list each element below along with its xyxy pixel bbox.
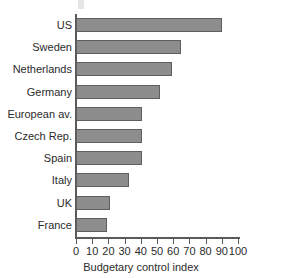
bar-row	[76, 192, 246, 214]
bar-row	[76, 81, 246, 103]
bar-row	[76, 125, 246, 147]
x-tick-label: 50	[151, 245, 163, 257]
bar-chart: USSwedenNetherlandsGermanyEuropean av.Cz…	[0, 0, 282, 278]
bar-row	[76, 36, 246, 58]
category-label: US	[0, 14, 72, 36]
bar-row	[76, 58, 246, 80]
x-tick-label: 70	[183, 245, 195, 257]
category-label: Germany	[0, 81, 72, 103]
bar-row	[76, 214, 246, 236]
category-axis-labels: USSwedenNetherlandsGermanyEuropean av.Cz…	[0, 14, 72, 236]
x-tick-label: 80	[199, 245, 211, 257]
bar	[76, 218, 107, 232]
category-label: Netherlands	[0, 58, 72, 80]
x-tick-mark	[222, 239, 223, 244]
x-tick-mark	[92, 239, 93, 244]
plot-area	[76, 14, 238, 236]
x-tick-label: 90	[216, 245, 228, 257]
x-tick-label: 30	[118, 245, 130, 257]
bar-row	[76, 147, 246, 169]
x-tick-label: 20	[102, 245, 114, 257]
x-tick-mark	[76, 239, 77, 244]
x-tick-mark	[206, 239, 207, 244]
x-tick-label: 100	[229, 245, 247, 257]
x-tick-mark	[108, 239, 109, 244]
x-tick-mark	[189, 239, 190, 244]
x-tick-label: 0	[73, 245, 79, 257]
category-label: Italy	[0, 169, 72, 191]
bar	[76, 62, 172, 76]
x-tick-mark	[157, 239, 158, 244]
bar	[76, 151, 142, 165]
x-tick-label: 60	[167, 245, 179, 257]
cropped-text-artifact	[78, 0, 84, 9]
bar	[76, 40, 181, 54]
category-label: UK	[0, 192, 72, 214]
x-tick-mark	[141, 239, 142, 244]
x-axis-title: Budgetary control index	[0, 261, 282, 273]
category-label: France	[0, 214, 72, 236]
bar	[76, 173, 129, 187]
bar-row	[76, 103, 246, 125]
x-tick-mark	[238, 239, 239, 244]
category-label: Spain	[0, 147, 72, 169]
category-label: Sweden	[0, 36, 72, 58]
x-tick-mark	[125, 239, 126, 244]
bar	[76, 107, 142, 121]
category-label: European av.	[0, 103, 72, 125]
bar-row	[76, 169, 246, 191]
x-tick-label: 40	[135, 245, 147, 257]
x-tick-mark	[173, 239, 174, 244]
bar-row	[76, 14, 246, 36]
x-tick-label: 10	[86, 245, 98, 257]
bar	[76, 196, 110, 210]
bar	[76, 129, 142, 143]
category-label: Czech Rep.	[0, 125, 72, 147]
bar	[76, 85, 160, 99]
bar	[76, 18, 222, 32]
